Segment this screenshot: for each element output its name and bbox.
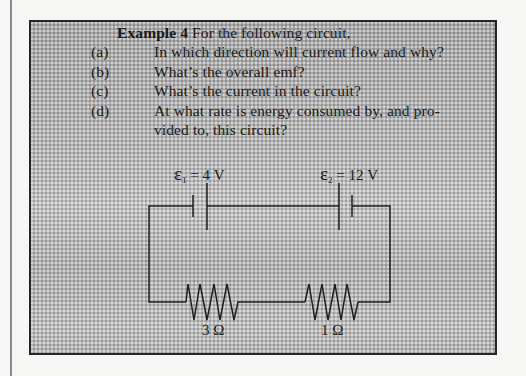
wire-right: [352, 206, 390, 302]
resistor-3-ohm: [186, 284, 305, 320]
battery2-label: ε2 = 12 V: [320, 163, 378, 185]
wire-left: [149, 206, 193, 302]
circuit-diagram: [0, 0, 526, 376]
battery1-subscript: 1: [182, 175, 187, 185]
resistor-1-ohm: [305, 284, 358, 320]
resistor1-label: 3 Ω: [202, 322, 224, 339]
emf-symbol: ε: [174, 163, 182, 184]
battery1-value: = 4 V: [190, 167, 224, 183]
battery1-label: ε1 = 4 V: [174, 163, 225, 185]
resistor2-label: 1 Ω: [321, 322, 343, 339]
emf-symbol: ε: [320, 163, 328, 184]
battery2-subscript: 2: [328, 175, 333, 185]
battery2-value: = 12 V: [336, 167, 378, 183]
